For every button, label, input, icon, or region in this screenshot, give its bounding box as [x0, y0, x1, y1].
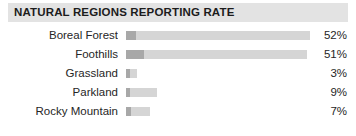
row-label: Parkland — [0, 83, 118, 102]
bar-cap — [126, 50, 144, 59]
row-value: 51% — [300, 45, 347, 64]
bar-cap — [126, 31, 136, 40]
chart-row: Boreal Forest 52% — [0, 26, 356, 45]
row-value: 7% — [300, 102, 347, 121]
row-label: Grassland — [0, 64, 118, 83]
bar-track — [126, 50, 312, 59]
row-label: Rocky Mountain — [0, 102, 118, 121]
bar-fill — [126, 88, 157, 97]
bar-cap — [126, 107, 131, 116]
row-label: Boreal Forest — [0, 26, 118, 45]
bar-fill — [126, 31, 310, 40]
bar-chart: Boreal Forest 52% Foothills 51% Grasslan… — [0, 26, 356, 136]
row-value: 52% — [300, 26, 347, 45]
natural-regions-reporting-rate-widget: NATURAL REGIONS REPORTING RATE Boreal Fo… — [0, 0, 356, 136]
row-value: 3% — [300, 64, 347, 83]
bar-fill — [126, 50, 307, 59]
bar-track — [126, 88, 312, 97]
bar-fill — [126, 107, 150, 116]
bar-fill — [126, 69, 137, 78]
chart-row: Foothills 51% — [0, 45, 356, 64]
bar-track — [126, 107, 312, 116]
row-label: Foothills — [0, 45, 118, 64]
chart-row: Rocky Mountain 7% — [0, 102, 356, 121]
chart-row: Parkland 9% — [0, 83, 356, 102]
page-title: NATURAL REGIONS REPORTING RATE — [14, 4, 234, 21]
chart-row: Grassland 3% — [0, 64, 356, 83]
bar-cap — [126, 88, 130, 97]
bar-track — [126, 69, 312, 78]
bar-cap — [126, 69, 130, 78]
bar-track — [126, 31, 312, 40]
row-value: 9% — [300, 83, 347, 102]
